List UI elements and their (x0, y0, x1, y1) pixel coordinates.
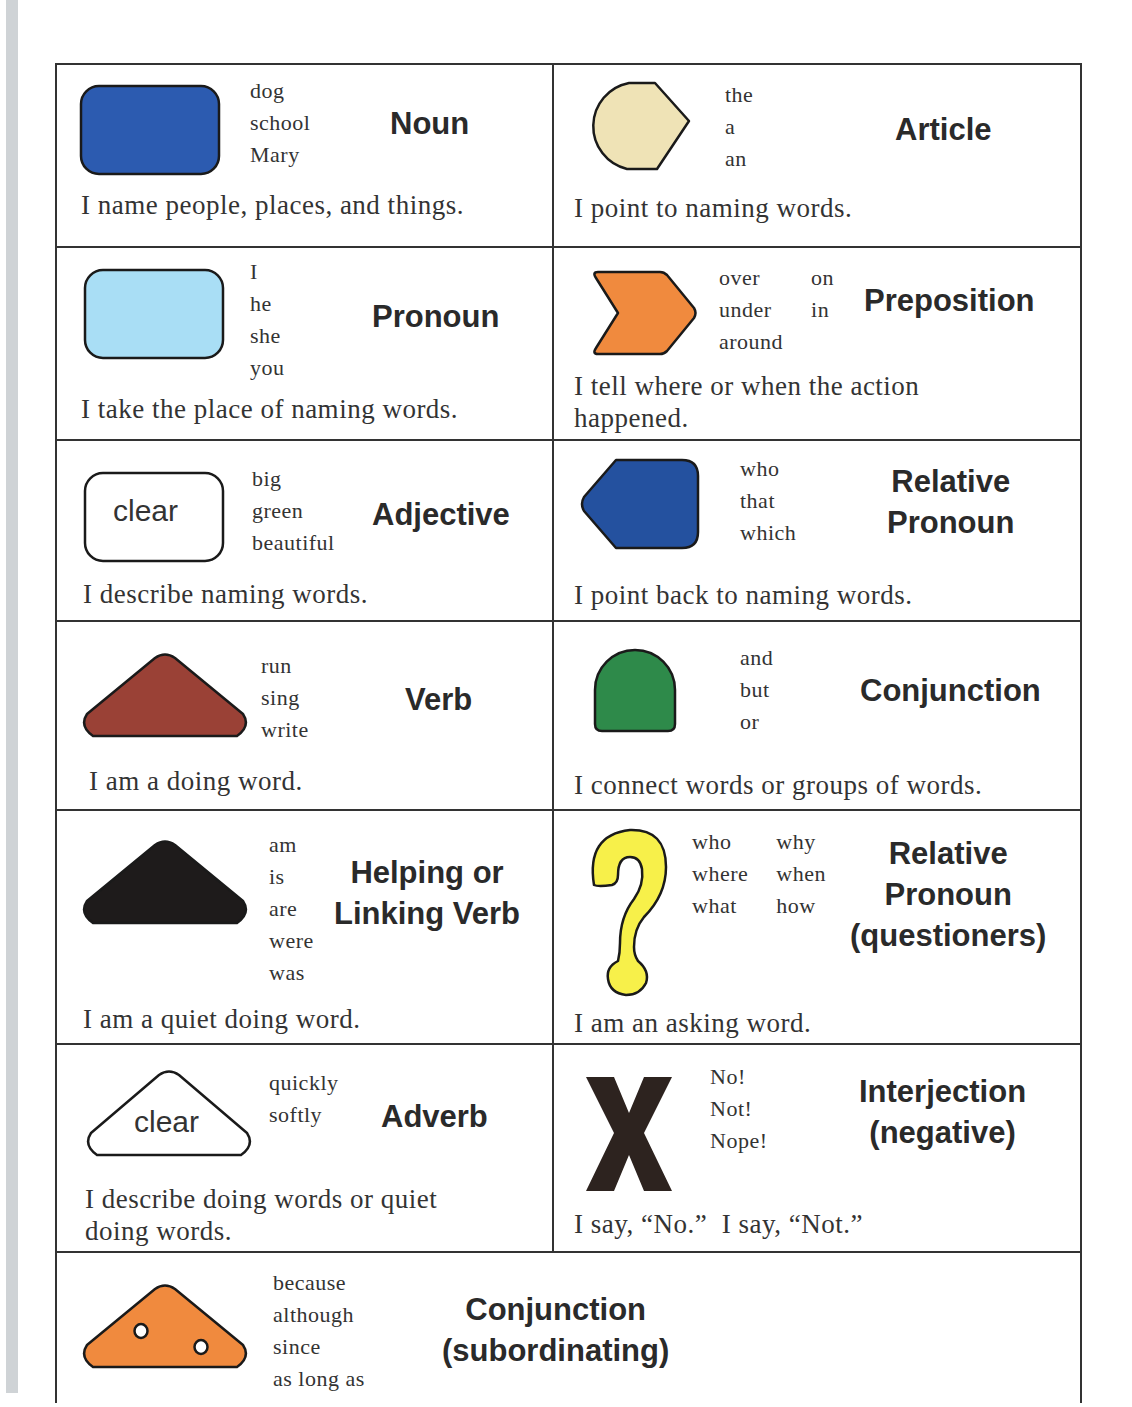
card-pronoun: I he she you Pronoun I take the place of… (57, 248, 554, 441)
noun-examples: dog school Mary (250, 75, 310, 171)
helping-verb-title: Helping or Linking Verb (334, 852, 520, 934)
card-interjection: No! Not! Nope! Interjection (negative) I… (554, 1045, 1080, 1253)
verb-description: I am a doing word. (89, 765, 303, 797)
example-word: I (250, 256, 285, 288)
example-word: which (740, 517, 796, 549)
example-word: but (740, 674, 773, 706)
preposition-title: Preposition (864, 280, 1035, 321)
adjective-examples: big green beautiful (252, 463, 335, 559)
card-relative-pronoun: who that which Relative Pronoun I point … (554, 441, 1080, 622)
description-line: happened. (574, 402, 919, 434)
example-word: you (250, 352, 285, 384)
example-word: how (776, 890, 826, 922)
adjective-clear-label: clear (113, 494, 178, 528)
conjunction-examples: and but or (740, 642, 773, 738)
example-word: in (811, 294, 834, 326)
title-line: Relative (887, 461, 1014, 502)
example-word: write (261, 714, 309, 746)
example-word: or (740, 706, 773, 738)
example-word: why (776, 826, 826, 858)
example-word: Nope! (710, 1125, 767, 1157)
title-line: Helping or (334, 852, 520, 893)
x-mark-icon (584, 1075, 674, 1193)
example-word: Not! (710, 1093, 767, 1125)
example-word: where (692, 858, 748, 890)
helping-verb-examples: am is are were was (269, 829, 314, 989)
card-questioners: who why where when what how Relative Pro… (554, 811, 1080, 1045)
example-word: big (252, 463, 335, 495)
title-line: Conjunction (442, 1289, 669, 1330)
adjective-description: I describe naming words. (83, 578, 368, 610)
example-word: as long as (273, 1363, 365, 1395)
example-word: No! (710, 1061, 767, 1093)
interjection-examples: No! Not! Nope! (710, 1061, 767, 1157)
helping-verb-triangle-icon (81, 839, 249, 927)
example-word: when (776, 858, 826, 890)
relative-pronoun-examples: who that which (740, 453, 796, 549)
article-description: I point to naming words. (574, 192, 852, 224)
card-subordinating-conjunction: because although since as long as Conjun… (57, 1253, 1080, 1407)
subordinating-title: Conjunction (subordinating) (442, 1289, 669, 1371)
preposition-chevron-icon (590, 268, 700, 358)
example-word: a (725, 111, 753, 143)
relative-pronoun-title: Relative Pronoun (887, 461, 1014, 543)
noun-title: Noun (390, 103, 469, 144)
card-conjunction: and but or Conjunction I connect words o… (554, 622, 1080, 811)
example-word: are (269, 893, 314, 925)
relative-pronoun-description: I point back to naming words. (574, 579, 912, 611)
example-word: although (273, 1299, 365, 1331)
title-line: Pronoun (850, 874, 1046, 915)
interjection-title: Interjection (negative) (859, 1071, 1026, 1153)
adverb-clear-label: clear (134, 1105, 199, 1139)
card-adjective: clear big green beautiful Adjective I de… (57, 441, 554, 622)
pronoun-examples: I he she you (250, 256, 285, 384)
questioners-examples: who why where when what how (692, 826, 826, 922)
example-word: who (740, 453, 796, 485)
example-word: dog (250, 75, 310, 107)
verb-examples: run sing write (261, 650, 309, 746)
example-word: she (250, 320, 285, 352)
card-noun: dog school Mary Noun I name people, plac… (57, 65, 554, 248)
card-adverb: clear quickly softly Adverb I describe d… (57, 1045, 554, 1253)
pronoun-shape-icon (83, 268, 225, 360)
example-word: an (725, 143, 753, 175)
example-word: run (261, 650, 309, 682)
card-preposition: over on under in around Preposition I te… (554, 248, 1080, 441)
description-line: I tell where or when the action (574, 370, 919, 402)
article-title: Article (895, 109, 991, 150)
title-line: (subordinating) (442, 1330, 669, 1371)
example-word: and (740, 642, 773, 674)
example-word: Mary (250, 139, 310, 171)
example-word: what (692, 890, 748, 922)
title-line: Interjection (859, 1071, 1026, 1112)
title-line: Relative (850, 833, 1046, 874)
subordinating-examples: because although since as long as (273, 1267, 365, 1395)
question-mark-icon (584, 825, 670, 997)
title-line: (questioners) (850, 915, 1046, 956)
example-word: green (252, 495, 335, 527)
card-helping-verb: am is are were was Helping or Linking Ve… (57, 811, 554, 1045)
example-word: beautiful (252, 527, 335, 559)
preposition-examples: over on under in around (719, 262, 834, 358)
conjunction-title: Conjunction (860, 670, 1041, 711)
article-examples: the a an (725, 79, 753, 175)
card-article: the a an Article I point to naming words… (554, 65, 1080, 248)
example-word: is (269, 861, 314, 893)
example-word: around (719, 326, 783, 358)
title-line: Pronoun (887, 502, 1014, 543)
example-word: were (269, 925, 314, 957)
noun-shape-icon (79, 84, 221, 176)
adverb-examples: quickly softly (269, 1067, 339, 1131)
description-line: doing words. (85, 1215, 437, 1247)
adjective-title: Adjective (372, 494, 510, 535)
adverb-title: Adverb (381, 1096, 488, 1137)
helping-verb-description: I am a quiet doing word. (83, 1003, 360, 1035)
pronoun-description: I take the place of naming words. (81, 393, 458, 425)
verb-triangle-icon (81, 652, 249, 740)
description-line: I describe doing words or quiet (85, 1183, 437, 1215)
adverb-description: I describe doing words or quiet doing wo… (85, 1183, 437, 1247)
example-word: because (273, 1267, 365, 1299)
conjunction-description: I connect words or groups of words. (574, 769, 982, 801)
example-word: he (250, 288, 285, 320)
verb-title: Verb (405, 679, 472, 720)
